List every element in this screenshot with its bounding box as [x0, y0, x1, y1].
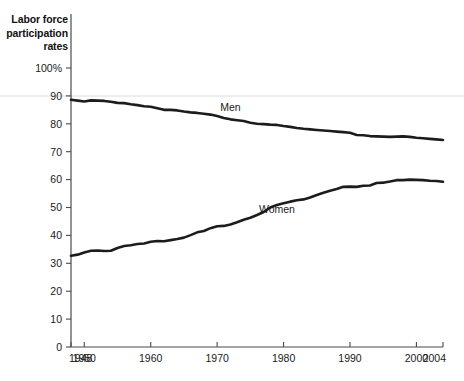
y-tick-label: 20 [50, 285, 62, 297]
y-tick-label: 50 [50, 201, 62, 213]
y-tick-label: 0 [56, 341, 62, 353]
y-tick-label: 60 [50, 173, 62, 185]
y-tick-label: 30 [50, 257, 62, 269]
line-chart-plot: 0102030405060708090100% 1948195019601970… [0, 0, 464, 381]
series-label-women: Women [259, 203, 295, 215]
y-tick-label: 90 [50, 90, 62, 102]
series-line-men [71, 100, 443, 140]
series-label-men: Men [220, 101, 241, 113]
y-tick-label: 40 [50, 229, 62, 241]
y-tick-label: 10 [50, 313, 62, 325]
chart-container: Labor force participation rates 01020304… [0, 0, 464, 381]
x-tick-label: 1990 [338, 352, 362, 364]
series-line-women [71, 180, 443, 256]
x-tick-label: 1970 [205, 352, 229, 364]
y-tick-label: 70 [50, 146, 62, 158]
x-tick-label: 1950 [73, 352, 97, 364]
x-tick-label: 1980 [272, 352, 296, 364]
x-tick-label: 1960 [139, 352, 163, 364]
y-tick-label: 80 [50, 118, 62, 130]
x-axis: 19481950196019701980199020002004 [69, 342, 446, 364]
y-tick-label: 100% [35, 62, 62, 74]
y-axis: 0102030405060708090100% [35, 14, 71, 353]
x-tick-label: 2004 [423, 352, 447, 364]
data-series-group [71, 100, 443, 256]
